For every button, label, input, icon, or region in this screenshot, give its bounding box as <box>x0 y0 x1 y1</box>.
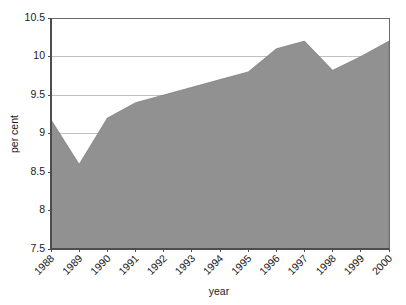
y-tick-label: 7.5 <box>30 242 45 254</box>
y-tick-label: 8 <box>39 203 45 215</box>
area-chart: 7.588.599.51010.5 1988198919901991199219… <box>0 0 406 305</box>
y-tick-label: 9.5 <box>30 88 45 100</box>
x-axis-title: year <box>209 285 230 297</box>
y-tick-label: 8.5 <box>30 165 45 177</box>
chart-container: 7.588.599.51010.5 1988198919901991199219… <box>0 0 406 305</box>
y-tick-label: 10.5 <box>25 11 46 23</box>
y-tick-label: 9 <box>39 126 45 138</box>
y-axis-title: per cent <box>8 115 20 153</box>
y-tick-label: 10 <box>33 49 45 61</box>
